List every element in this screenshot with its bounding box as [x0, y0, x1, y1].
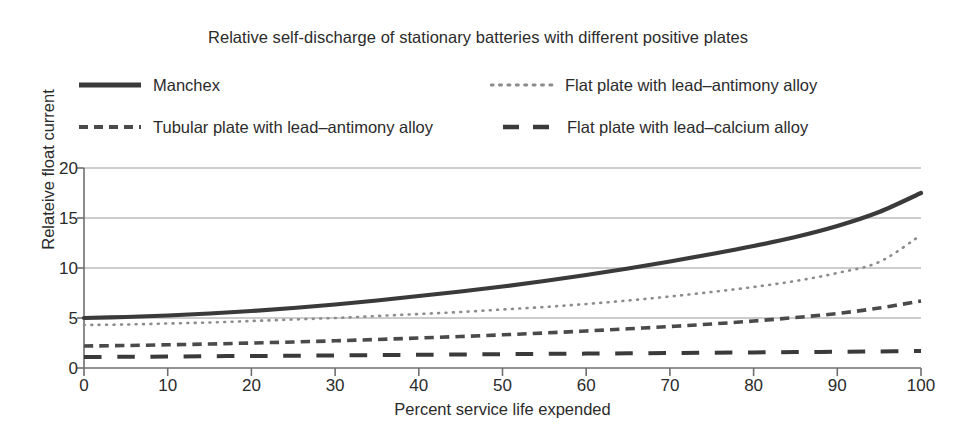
series-line-3 [84, 351, 921, 357]
x-tick-label-50: 50 [473, 377, 533, 394]
x-axis-title: Percent service life expended [84, 400, 921, 419]
x-tick-label-40: 40 [389, 377, 449, 394]
x-tick-label-20: 20 [221, 377, 281, 394]
chart-figure: Relative self-discharge of stationary ba… [0, 0, 956, 442]
x-tick-label-10: 10 [138, 377, 198, 394]
x-axis-tick-labels: 0102030405060708090100 [84, 377, 921, 401]
x-tick-label-0: 0 [54, 377, 114, 394]
x-tick-label-30: 30 [305, 377, 365, 394]
x-tick-label-80: 80 [724, 377, 784, 394]
series-line-0 [84, 193, 921, 318]
x-tick-label-90: 90 [807, 377, 867, 394]
chart-plot [0, 0, 956, 442]
x-tick-label-60: 60 [556, 377, 616, 394]
x-tick-label-100: 100 [891, 377, 951, 394]
x-tick-label-70: 70 [640, 377, 700, 394]
